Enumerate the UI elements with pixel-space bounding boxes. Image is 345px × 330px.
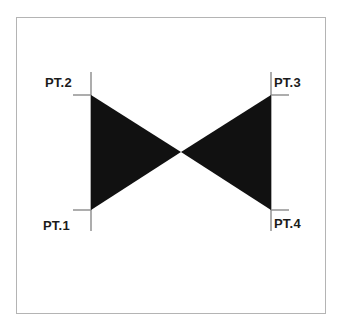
left-triangle <box>91 95 181 210</box>
figure-canvas: PT.2 PT.1 PT.3 PT.4 <box>0 0 345 330</box>
right-triangle <box>181 95 271 210</box>
point-label-pt3: PT.3 <box>274 76 301 89</box>
point-label-pt4: PT.4 <box>274 217 301 230</box>
point-label-pt1: PT.1 <box>43 219 70 232</box>
bowtie-diagram <box>0 0 345 330</box>
point-label-pt2: PT.2 <box>45 76 72 89</box>
